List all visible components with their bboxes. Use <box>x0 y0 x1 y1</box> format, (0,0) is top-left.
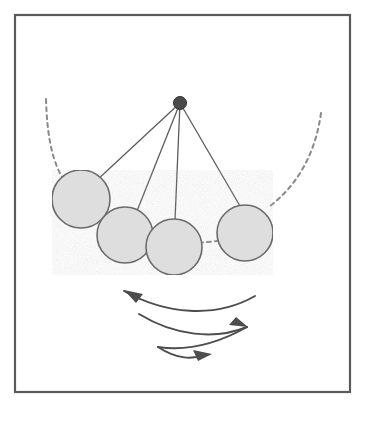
arc-left-path <box>46 99 66 183</box>
oscillation-arrows <box>124 290 255 361</box>
arrow-swing-rightward-upper-head <box>229 317 248 327</box>
arc-right-path <box>270 113 321 206</box>
string-to-ball-2 <box>137 103 180 211</box>
figure-canvas <box>0 0 366 421</box>
string-to-ball-4 <box>180 103 240 206</box>
pendulum-figure: Pendulum swinging on a string <box>0 0 366 421</box>
arrow-swing-leftward-head <box>124 290 143 303</box>
arrow-swing-leftward-lower <box>158 327 247 348</box>
bob-position-4 <box>217 205 273 261</box>
pendulum-bobs <box>52 170 273 275</box>
arrow-swing-leftward <box>124 291 255 311</box>
string-to-ball-1 <box>96 103 180 181</box>
string-to-ball-3 <box>175 103 180 220</box>
arrow-swing-rightward-final-head <box>193 350 212 361</box>
bob-position-3 <box>146 219 202 275</box>
bob-position-2 <box>97 207 153 263</box>
pivot-point <box>174 97 187 110</box>
pendulum-strings <box>96 103 240 220</box>
